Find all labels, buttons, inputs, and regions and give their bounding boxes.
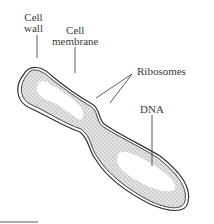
ribosomes-label: Ribosomes: [137, 66, 186, 77]
cell-membrane-label: Cell membrane: [52, 25, 98, 47]
cell-wall-label: Cell wall: [24, 12, 43, 34]
ribosomes-leader-1: [96, 74, 132, 98]
cell-membrane-label-line2: membrane: [52, 36, 98, 47]
ribosomes-leader-2: [110, 74, 132, 103]
dna-label: DNA: [140, 104, 164, 115]
ribosomes-label-text: Ribosomes: [137, 65, 186, 77]
dna-label-text: DNA: [140, 103, 164, 115]
cell-wall-label-line2: wall: [24, 23, 43, 34]
